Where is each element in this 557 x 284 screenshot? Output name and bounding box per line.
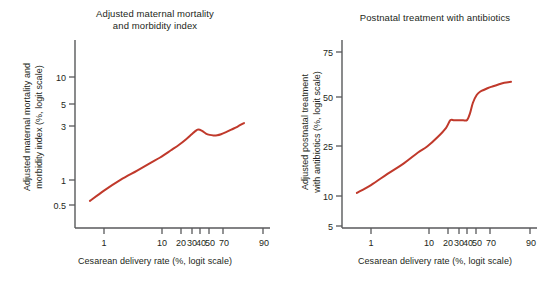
chart-panel-maternal-mortality: Adjusted maternal mortality and morbidit… bbox=[0, 0, 280, 284]
x-axis-label-left: Cesarean delivery rate (%, logit scale) bbox=[55, 256, 255, 266]
x-tick-label-10: 10 bbox=[157, 238, 167, 248]
y-tick-label-75: 75 bbox=[323, 48, 333, 58]
x-axis-label-right: Cesarean delivery rate (%, logit scale) bbox=[320, 256, 550, 266]
y-tick-label-50: 50 bbox=[323, 93, 333, 103]
y-tick-label-3: 3 bbox=[61, 122, 66, 132]
y-tick-label-0point5: 0.5 bbox=[53, 201, 66, 211]
x-ticks-right bbox=[371, 228, 530, 234]
x-tick-label-10: 10 bbox=[424, 238, 434, 248]
x-tick-label-20: 20 bbox=[176, 238, 186, 248]
x-tick-label-90: 90 bbox=[259, 238, 269, 248]
y-ticks-right bbox=[336, 52, 342, 226]
y-ticks-left bbox=[69, 77, 75, 205]
x-tick-label-70: 70 bbox=[486, 238, 496, 248]
x-tick-labels-right: 1 10 20 30 40 50 70 90 bbox=[368, 238, 536, 248]
x-tick-labels-left: 1 10 20 30 40 50 70 90 bbox=[101, 238, 269, 248]
y-tick-labels-right: 75 50 25 10 5 bbox=[323, 48, 333, 232]
y-tick-label-10: 10 bbox=[56, 73, 66, 83]
data-line-maternal-mortality bbox=[90, 123, 244, 201]
x-tick-label-50: 50 bbox=[205, 238, 215, 248]
figure-root: Adjusted maternal mortality and morbidit… bbox=[0, 0, 557, 284]
data-line-postnatal-antibiotics bbox=[357, 82, 511, 193]
y-tick-label-5: 5 bbox=[328, 222, 333, 232]
y-tick-labels-left: 10 5 3 1 0.5 bbox=[53, 73, 66, 211]
x-ticks-left bbox=[104, 228, 263, 234]
x-tick-label-20: 20 bbox=[443, 238, 453, 248]
y-tick-label-25: 25 bbox=[323, 142, 333, 152]
y-tick-label-5: 5 bbox=[61, 100, 66, 110]
chart-panel-postnatal-antibiotics: Postnatal treatment with antibiotics Adj… bbox=[280, 0, 557, 284]
plot-area-right: 75 50 25 10 5 1 10 20 30 bbox=[280, 0, 557, 284]
x-tick-label-90: 90 bbox=[526, 238, 536, 248]
x-tick-label-70: 70 bbox=[219, 238, 229, 248]
y-tick-label-1: 1 bbox=[61, 176, 66, 186]
y-tick-label-10: 10 bbox=[323, 192, 333, 202]
x-tick-label-1: 1 bbox=[368, 238, 373, 248]
plot-area-left: 10 5 3 1 0.5 1 10 20 30 bbox=[0, 0, 280, 284]
x-tick-label-1: 1 bbox=[101, 238, 106, 248]
x-tick-label-50: 50 bbox=[472, 238, 482, 248]
